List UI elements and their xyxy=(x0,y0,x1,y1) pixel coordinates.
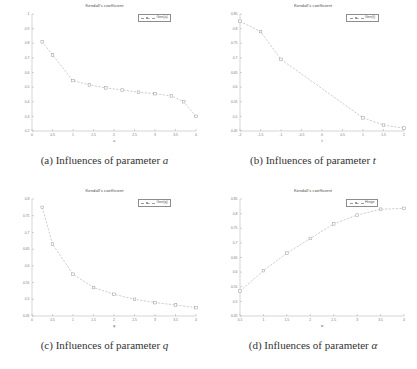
svg-text:0.7: 0.7 xyxy=(24,231,29,235)
svg-text:q: q xyxy=(112,323,115,328)
svg-text:0.65: 0.65 xyxy=(22,247,29,251)
svg-text:2.5: 2.5 xyxy=(132,318,137,322)
svg-text:0.55: 0.55 xyxy=(22,281,29,285)
svg-text:4: 4 xyxy=(403,318,405,322)
legend-line-marker-icon xyxy=(141,201,155,205)
svg-text:0.7: 0.7 xyxy=(24,56,29,60)
plot-area-d: Kendall's coefficient 0.450.50.550.60.65… xyxy=(218,185,408,335)
svg-text:1: 1 xyxy=(362,133,364,137)
caption-c: (c) Influences of parameter q xyxy=(41,339,169,351)
legend-label-d: Hinge xyxy=(365,201,374,205)
svg-text:0.5: 0.5 xyxy=(24,297,29,301)
svg-text:2: 2 xyxy=(309,318,311,322)
svg-text:0.5: 0.5 xyxy=(340,133,345,137)
svg-text:0.6: 0.6 xyxy=(24,264,29,268)
svg-text:0.5: 0.5 xyxy=(50,133,55,137)
svg-text:0: 0 xyxy=(31,318,33,322)
legend-line-marker-icon xyxy=(350,201,364,205)
caption-c-param: q xyxy=(163,339,169,351)
svg-text:0.65: 0.65 xyxy=(231,256,238,260)
svg-text:0.5: 0.5 xyxy=(50,318,55,322)
panel-c: Kendall's coefficient 0.450.50.550.60.65… xyxy=(0,185,209,369)
plot-area-c: Kendall's coefficient 0.450.50.550.60.65… xyxy=(10,185,200,335)
svg-text:3: 3 xyxy=(154,318,156,322)
svg-text:0.75: 0.75 xyxy=(231,226,238,230)
svg-text:α: α xyxy=(321,323,324,328)
panel-d: Kendall's coefficient 0.450.50.550.60.65… xyxy=(209,185,417,369)
svg-text:1.5: 1.5 xyxy=(91,318,96,322)
svg-text:4: 4 xyxy=(195,133,197,137)
svg-text:0.8: 0.8 xyxy=(24,41,29,45)
svg-text:4: 4 xyxy=(195,318,197,322)
svg-text:0.5: 0.5 xyxy=(233,300,238,304)
svg-text:0.75: 0.75 xyxy=(22,214,29,218)
plot-area-a: Kendall's coefficient 0.20.30.40.50.60.7… xyxy=(10,0,200,150)
caption-d-param: α xyxy=(372,339,378,351)
caption-d: (d) Influences of parameter α xyxy=(249,339,378,351)
figure-grid: Kendall's coefficient 0.20.30.40.50.60.7… xyxy=(0,0,417,369)
svg-text:-1: -1 xyxy=(279,133,282,137)
svg-text:3.5: 3.5 xyxy=(173,133,178,137)
svg-text:0.85: 0.85 xyxy=(231,197,238,201)
legend-line-marker-icon xyxy=(141,16,155,20)
svg-text:3.5: 3.5 xyxy=(173,318,178,322)
chart-b: 0.450.50.550.60.650.70.750.80.85-2-1.5-1… xyxy=(218,0,408,150)
svg-text:0: 0 xyxy=(31,133,33,137)
caption-b-param: t xyxy=(373,154,376,166)
svg-text:0.75: 0.75 xyxy=(231,41,238,45)
svg-text:-0.5: -0.5 xyxy=(299,133,305,137)
svg-text:0.8: 0.8 xyxy=(233,27,238,31)
svg-text:1.5: 1.5 xyxy=(91,133,96,137)
svg-text:2: 2 xyxy=(403,133,405,137)
panel-a: Kendall's coefficient 0.20.30.40.50.60.7… xyxy=(0,0,209,185)
svg-text:0.45: 0.45 xyxy=(22,314,29,318)
svg-text:2.5: 2.5 xyxy=(331,318,336,322)
svg-text:-2: -2 xyxy=(238,133,241,137)
svg-text:-1.5: -1.5 xyxy=(258,133,264,137)
legend-line-marker-icon xyxy=(350,16,364,20)
svg-text:0.4: 0.4 xyxy=(24,100,29,104)
caption-b-text: (b) Influences of parameter xyxy=(250,154,370,166)
svg-text:0.5: 0.5 xyxy=(238,318,243,322)
svg-text:2: 2 xyxy=(113,133,115,137)
caption-a: (a) Influences of parameter a xyxy=(41,154,169,166)
svg-text:0.55: 0.55 xyxy=(231,100,238,104)
chart-c: 0.450.50.550.60.650.70.750.800.511.522.5… xyxy=(10,185,200,335)
svg-text:2: 2 xyxy=(113,318,115,322)
plot-area-b: Kendall's coefficient 0.450.50.550.60.65… xyxy=(218,0,408,150)
svg-text:0.45: 0.45 xyxy=(231,129,238,133)
svg-text:0.3: 0.3 xyxy=(24,115,29,119)
svg-text:1: 1 xyxy=(262,318,264,322)
svg-text:0: 0 xyxy=(321,133,323,137)
svg-text:0.7: 0.7 xyxy=(233,241,238,245)
svg-text:0.55: 0.55 xyxy=(231,285,238,289)
caption-a-text: (a) Influences of parameter xyxy=(41,154,160,166)
svg-text:1: 1 xyxy=(27,12,29,16)
svg-text:t: t xyxy=(321,138,323,143)
svg-text:0.7: 0.7 xyxy=(233,56,238,60)
svg-text:2.5: 2.5 xyxy=(132,133,137,137)
legend-d[interactable]: Hinge xyxy=(346,199,378,207)
caption-a-param: a xyxy=(163,154,169,166)
svg-text:3: 3 xyxy=(154,133,156,137)
legend-a[interactable]: Gen(a) xyxy=(138,14,172,22)
svg-text:1.5: 1.5 xyxy=(284,318,289,322)
caption-d-text: (d) Influences of parameter xyxy=(249,339,369,351)
svg-text:0.45: 0.45 xyxy=(231,314,238,318)
svg-text:a: a xyxy=(112,138,115,143)
svg-text:0.2: 0.2 xyxy=(24,129,29,133)
svg-text:0.6: 0.6 xyxy=(233,85,238,89)
chart-a: 0.20.30.40.50.60.70.80.9100.511.522.533.… xyxy=(10,0,200,150)
svg-text:0.65: 0.65 xyxy=(231,71,238,75)
legend-label-b: Gen(t) xyxy=(365,16,375,20)
svg-text:1.5: 1.5 xyxy=(381,133,386,137)
chart-d: 0.450.50.550.60.650.70.750.80.850.511.52… xyxy=(218,185,408,335)
caption-b: (b) Influences of parameter t xyxy=(250,154,376,166)
legend-label-a: Gen(a) xyxy=(157,16,168,20)
legend-c[interactable]: Gen(q) xyxy=(138,199,172,207)
svg-text:3.5: 3.5 xyxy=(378,318,383,322)
svg-text:0.6: 0.6 xyxy=(233,270,238,274)
legend-b[interactable]: Gen(t) xyxy=(346,14,379,22)
svg-text:0.9: 0.9 xyxy=(24,27,29,31)
legend-label-c: Gen(q) xyxy=(157,201,168,205)
